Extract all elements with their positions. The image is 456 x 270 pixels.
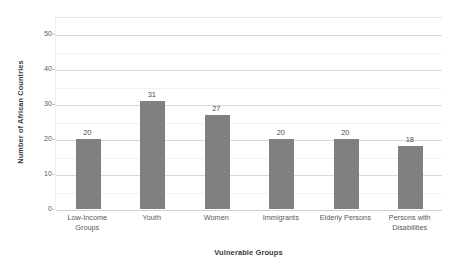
bar: [76, 139, 101, 209]
bar-value-label: 18: [380, 135, 440, 144]
x-axis-category-label: Elderly Persons: [309, 213, 381, 223]
gridline-major: [56, 35, 442, 36]
x-axis-title: Vulnerable Groups: [55, 248, 442, 257]
bar-value-label: 20: [57, 128, 117, 137]
x-axis-category-label: Persons with Disabilities: [374, 213, 446, 232]
gridline-minor: [56, 123, 442, 124]
bar-value-label: 27: [186, 104, 246, 113]
gridline-major: [56, 105, 442, 106]
gridline-major: [56, 70, 442, 71]
bar-value-label: 31: [122, 90, 182, 99]
x-axis-category-label: Immigrants: [245, 213, 317, 223]
y-axis-tick-label: 50: [28, 30, 52, 38]
bar-chart-figure: Number of African Countries 01020304050 …: [0, 0, 456, 270]
y-axis-tick-label: 10: [28, 170, 52, 178]
y-axis-tick-label: 0: [28, 205, 52, 213]
gridline-minor: [56, 88, 442, 89]
axis-baseline: [56, 210, 442, 211]
plot-area: [55, 17, 442, 209]
x-axis-category-label: Low-Income Groups: [51, 213, 123, 232]
x-axis-category-label: Youth: [116, 213, 188, 223]
gridline-minor: [56, 158, 442, 159]
bar-value-label: 20: [251, 128, 311, 137]
y-axis-tick-label: 40: [28, 65, 52, 73]
y-axis-tick-mark: [51, 209, 55, 210]
bar: [269, 139, 294, 209]
x-axis-category-label: Women: [180, 213, 252, 223]
gridline-minor: [56, 193, 442, 194]
bar: [140, 101, 165, 209]
bar: [398, 146, 423, 209]
y-axis-title: Number of African Countries: [14, 7, 28, 217]
gridline-minor: [56, 53, 442, 54]
bar: [205, 115, 230, 209]
gridline-major: [56, 175, 442, 176]
y-axis-tick-label: 30: [28, 100, 52, 108]
bar-value-label: 20: [315, 128, 375, 137]
y-axis-tick-label: 20: [28, 135, 52, 143]
bar: [334, 139, 359, 209]
